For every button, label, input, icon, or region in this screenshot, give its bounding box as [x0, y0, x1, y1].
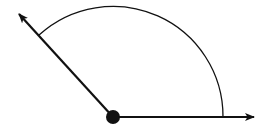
ray-left — [19, 14, 113, 117]
vertex-point — [106, 110, 120, 124]
angle-diagram — [0, 0, 262, 136]
angle-arc — [39, 6, 223, 117]
